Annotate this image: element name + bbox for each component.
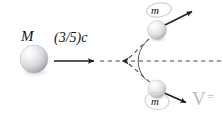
top-mass-label: m (151, 4, 159, 16)
big-sphere (20, 45, 48, 73)
incoming-speed-label: (3/5)c (54, 30, 87, 46)
top-velocity-arrow (161, 12, 192, 28)
bottom-mass-label: m (151, 95, 159, 107)
physics-diagram: M (3/5)c m m V = (0, 0, 223, 121)
top-sphere (148, 21, 167, 40)
velocity-equals-label: = (207, 89, 214, 105)
top-mass-label-oval (146, 1, 173, 18)
velocity-symbol-label: V (192, 88, 206, 110)
branch-dashed-upper (129, 36, 152, 58)
branch-dashed-lower (129, 64, 152, 84)
decay-vertex-arrowhead (122, 58, 129, 65)
construction-lines (100, 36, 221, 84)
big-mass-label: M (21, 28, 34, 45)
diagram-canvas (0, 0, 223, 121)
